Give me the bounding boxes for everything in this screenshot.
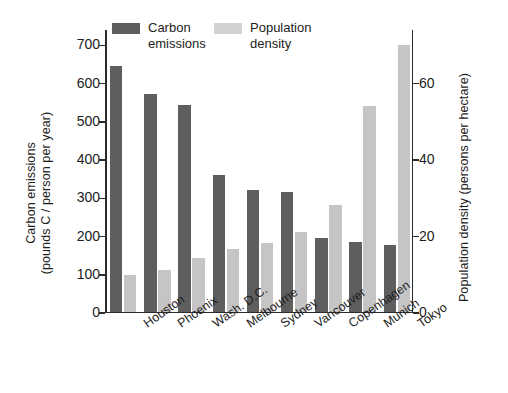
y-axis-left-tick-label: 200 (40, 228, 100, 244)
x-axis-tick-label: Melbourne (244, 319, 252, 330)
y-axis-right-tick-label: 60 (419, 75, 479, 91)
legend-label: Carbon emissions (148, 20, 206, 52)
y-axis-left-tick-label: 100 (40, 266, 100, 282)
bar-population-density (398, 45, 411, 311)
y-axis-right-title: Population density (persons per hectare) (457, 58, 472, 318)
y-axis-left-tick-label: 400 (40, 151, 100, 167)
x-axis-tick-label: Munich (381, 319, 389, 330)
legend-swatch-icon (214, 23, 242, 34)
bar-carbon-emissions (144, 94, 157, 312)
y-axis-right-tick-label: 40 (419, 151, 479, 167)
bar-population-density (363, 106, 376, 311)
y-axis-right-tick-label: 20 (419, 228, 479, 244)
x-axis-tick-label: Sydney (278, 319, 286, 330)
bar-chart-figure: Carbon emissions (pounds C / person per … (0, 0, 508, 393)
x-axis-tick-label: Vancouver (312, 319, 320, 330)
bar-carbon-emissions (110, 66, 123, 311)
legend-entry: Population density (214, 20, 311, 52)
y-axis-left-tick-label: 500 (40, 113, 100, 129)
x-axis-tick-label: Wash. D.C. (210, 319, 218, 330)
bar-carbon-emissions (213, 175, 226, 311)
y-axis-left-tick-label: 700 (40, 36, 100, 52)
bar-population-density (329, 205, 342, 312)
x-axis-tick-label: Phoenix (175, 319, 183, 330)
bar-population-density (124, 275, 137, 311)
y-axis-left-tick-label: 300 (40, 189, 100, 205)
legend-entry: Carbon emissions (112, 20, 206, 52)
x-axis-tick-label: Houston (141, 319, 149, 330)
plot-area: 0100200300400500600700 0204060 (105, 30, 413, 313)
x-axis-tick-label: Tokyo (415, 319, 423, 330)
y-axis-left-tick-label: 600 (40, 75, 100, 91)
x-axis-tick-label: Copenhagen (346, 319, 354, 330)
bar-carbon-emissions (315, 238, 328, 312)
y-axis-left-tick-label: 0 (40, 304, 100, 320)
legend-swatch-icon (112, 23, 140, 34)
bar-group-container (105, 30, 413, 312)
bar-carbon-emissions (178, 105, 191, 312)
y-axis-left-title-line1: Carbon emissions (24, 142, 38, 244)
x-axis-tick-labels: HoustonPhoenixWash. D.C.MelbourneSydneyV… (105, 313, 425, 393)
legend-label: Population density (250, 20, 311, 52)
